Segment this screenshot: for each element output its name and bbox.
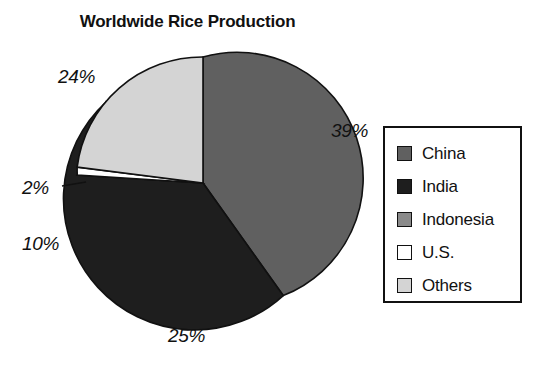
- legend-swatch-indonesia: [397, 212, 412, 227]
- pie-label-others: 24%: [58, 66, 95, 88]
- chart-legend: China India Indonesia U.S. Others: [383, 126, 522, 303]
- legend-item-others[interactable]: Others: [397, 269, 520, 302]
- legend-item-us[interactable]: U.S.: [397, 236, 520, 269]
- legend-swatch-us: [397, 245, 412, 260]
- legend-label-others: Others: [422, 276, 472, 296]
- legend-swatch-others: [397, 278, 412, 293]
- legend-swatch-china: [397, 146, 412, 161]
- legend-label-china: China: [422, 144, 465, 164]
- pie-chart-figure: Worldwide Rice Production 39% 25% 10% 2%…: [0, 0, 543, 367]
- legend-label-us: U.S.: [422, 243, 454, 263]
- legend-label-indonesia: Indonesia: [422, 210, 494, 230]
- pie-label-indonesia: 10%: [22, 233, 59, 255]
- legend-item-china[interactable]: China: [397, 137, 520, 170]
- pie-label-us: 2%: [22, 177, 49, 199]
- legend-label-india: India: [422, 177, 458, 197]
- legend-swatch-india: [397, 179, 412, 194]
- pie-label-china: 39%: [331, 120, 368, 142]
- pie-label-india: 25%: [168, 325, 205, 347]
- legend-item-india[interactable]: India: [397, 170, 520, 203]
- legend-item-indonesia[interactable]: Indonesia: [397, 203, 520, 236]
- pie-slice-others[interactable]: [77, 57, 203, 183]
